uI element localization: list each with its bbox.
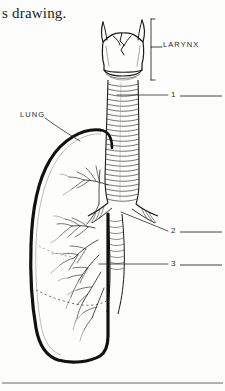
- larynx-bracket: [151, 19, 162, 80]
- label-larynx: LARYNX: [163, 40, 199, 49]
- label-lung: LUNG: [20, 110, 45, 119]
- bronchial-tree: [51, 166, 108, 341]
- respiratory-system-figure: [0, 0, 225, 391]
- bronchi-illustration: [88, 203, 158, 314]
- answer-blank-lines[interactable]: [180, 96, 222, 265]
- blank-number-2: 2: [171, 226, 175, 235]
- diaphragm-dashed-line: [36, 246, 108, 305]
- larynx-illustration: [102, 20, 145, 80]
- blank-number-1: 1: [171, 90, 175, 99]
- worksheet-page: s drawing.: [0, 0, 225, 391]
- blank-number-3: 3: [171, 259, 175, 268]
- lung-leader-line: [45, 118, 80, 141]
- trachea-illustration: [105, 80, 139, 204]
